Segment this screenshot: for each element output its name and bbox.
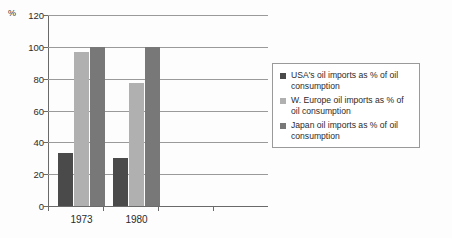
bar [129,83,144,206]
bar [145,47,160,206]
x-axis-category-label: 1980 [107,214,167,225]
x-axis-tick-mark [48,206,49,211]
x-axis-tick-mark [103,206,104,211]
legend-entry: Japan oil imports as % of oil consumptio… [280,120,413,141]
bar-chart-figure: % 020406080100120 19731980 USA's oil imp… [0,0,452,238]
y-axis-tick-label: 0 [18,201,44,212]
legend-swatch-icon [280,73,286,79]
chart-legend: USA's oil imports as % of oil consumptio… [272,63,420,148]
y-axis-tick-label: 60 [18,105,44,116]
x-axis-category-label: 1973 [52,214,112,225]
legend-label: Japan oil imports as % of oil consumptio… [291,120,413,141]
legend-entry: USA's oil imports as % of oil consumptio… [280,70,413,91]
x-axis-tick-mark [213,206,214,211]
y-axis-tick-label: 100 [18,41,44,52]
y-axis-tick-label: 120 [18,10,44,21]
bar [74,52,89,206]
y-axis-tick-label: 20 [18,169,44,180]
x-axis-tick-mark [158,206,159,211]
plot-area [48,15,268,206]
gridline [48,15,268,16]
legend-label: W. Europe oil imports as % of oil consum… [291,95,413,116]
legend-swatch-icon [280,123,286,129]
bar [113,158,128,206]
y-axis-tick-label: 40 [18,137,44,148]
y-axis-tick-label: 80 [18,73,44,84]
legend-label: USA's oil imports as % of oil consumptio… [291,70,413,91]
y-axis-unit-label: % [8,8,16,18]
legend-swatch-icon [280,98,286,104]
legend-entry: W. Europe oil imports as % of oil consum… [280,95,413,116]
bar [90,47,105,206]
bar [58,153,73,206]
